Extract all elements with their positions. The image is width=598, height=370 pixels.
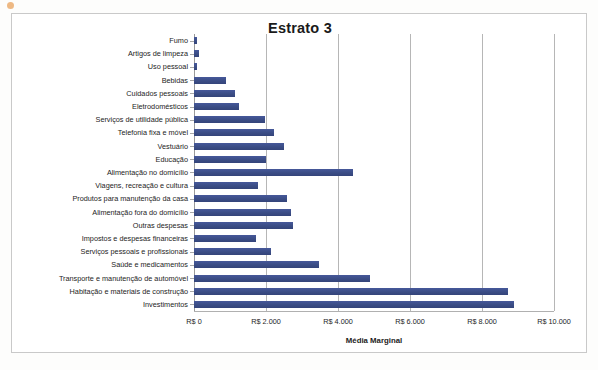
bar[interactable]: [194, 288, 508, 295]
bar[interactable]: [194, 169, 353, 176]
category-label: Alimentação no domicílio: [107, 168, 188, 177]
bar[interactable]: [194, 195, 287, 202]
bar[interactable]: [194, 182, 258, 189]
bar-row: Outras despesas: [194, 219, 554, 232]
category-label: Saúde e medicamentos: [111, 260, 188, 269]
bar-row: Alimentação fora do domicílio: [194, 205, 554, 218]
y-tick-mark: [190, 304, 194, 305]
x-axis-title: Média Marginal: [194, 336, 554, 345]
plot-area: FumoArtigos de limpezaUso pessoalBebidas…: [194, 34, 554, 311]
bar[interactable]: [194, 37, 197, 44]
y-tick-mark: [190, 146, 194, 147]
category-label: Alimentação fora do domicílio: [92, 208, 188, 217]
bar[interactable]: [194, 143, 284, 150]
y-tick-mark: [190, 93, 194, 94]
y-tick-mark: [190, 186, 194, 187]
category-label: Educação: [156, 155, 188, 164]
bar[interactable]: [194, 261, 319, 268]
category-label: Vestuário: [158, 142, 188, 151]
category-label: Telefonia fixa e móvel: [118, 128, 188, 137]
bar[interactable]: [194, 275, 370, 282]
x-tick-label: R$ 10.000: [537, 317, 571, 326]
scan-artifact-dot: [7, 2, 14, 9]
bar[interactable]: [194, 50, 199, 57]
y-tick-mark: [190, 67, 194, 68]
bar-row: Habitação e materiais de construção: [194, 285, 554, 298]
y-tick-mark: [190, 252, 194, 253]
bar-row: Transporte e manutenção de automóvel: [194, 271, 554, 284]
y-tick-mark: [190, 54, 194, 55]
bar[interactable]: [194, 77, 226, 84]
category-label: Investimentos: [143, 300, 188, 309]
bar[interactable]: [194, 63, 197, 70]
bar-row: Serviços pessoais e profissionais: [194, 245, 554, 258]
chart-page: Estrato 3 FumoArtigos de limpezaUso pess…: [0, 0, 598, 370]
y-tick-mark: [190, 159, 194, 160]
category-label: Bebidas: [162, 76, 188, 85]
y-tick-mark: [190, 199, 194, 200]
category-label: Transporte e manutenção de automóvel: [59, 274, 188, 283]
bar-row: Vestuário: [194, 140, 554, 153]
category-label: Outras despesas: [133, 221, 188, 230]
bar[interactable]: [194, 235, 256, 242]
y-tick-mark: [190, 291, 194, 292]
bar-row: Educação: [194, 153, 554, 166]
category-label: Serviços de utilidade pública: [96, 115, 188, 124]
bar-row: Alimentação no domicílio: [194, 166, 554, 179]
y-tick-mark: [190, 107, 194, 108]
bar[interactable]: [194, 248, 271, 255]
bar-row: Produtos para manutenção da casa: [194, 192, 554, 205]
y-tick-mark: [190, 278, 194, 279]
bar-row: Investimentos: [194, 298, 554, 311]
bar-row: Eletrodomésticos: [194, 100, 554, 113]
bar-row: Saúde e medicamentos: [194, 258, 554, 271]
category-label: Habitação e materiais de construção: [70, 287, 188, 296]
y-tick-mark: [190, 212, 194, 213]
bar[interactable]: [194, 222, 293, 229]
y-tick-mark: [190, 41, 194, 42]
bar-row: Fumo: [194, 34, 554, 47]
bar-row: Cuidados pessoais: [194, 87, 554, 100]
bar[interactable]: [194, 103, 239, 110]
y-tick-mark: [190, 225, 194, 226]
bar[interactable]: [194, 156, 266, 163]
x-tick-label: R$ 6.000: [395, 317, 425, 326]
x-tick-label: R$ 8.000: [467, 317, 497, 326]
category-label: Uso pessoal: [148, 62, 188, 71]
y-tick-mark: [190, 80, 194, 81]
x-tick-label: R$ 0: [186, 317, 201, 326]
chart-frame: Estrato 3 FumoArtigos de limpezaUso pess…: [11, 13, 587, 353]
bar[interactable]: [194, 90, 235, 97]
x-tick-label: R$ 2.000: [251, 317, 281, 326]
y-tick-mark: [190, 265, 194, 266]
category-axis-line: [194, 311, 554, 312]
bar[interactable]: [194, 116, 265, 123]
x-tick-label: R$ 4.000: [323, 317, 353, 326]
category-label: Viagens, recreação e cultura: [95, 181, 188, 190]
bar-row: Viagens, recreação e cultura: [194, 179, 554, 192]
category-label: Impostos e despesas financeiras: [82, 234, 188, 243]
bar-row: Bebidas: [194, 74, 554, 87]
category-label: Serviços pessoais e profissionais: [81, 247, 188, 256]
bar-row: Uso pessoal: [194, 60, 554, 73]
bar[interactable]: [194, 209, 291, 216]
y-tick-mark: [190, 238, 194, 239]
y-tick-mark: [190, 133, 194, 134]
y-tick-mark: [190, 120, 194, 121]
y-tick-mark: [190, 172, 194, 173]
category-label: Cuidados pessoais: [126, 89, 188, 98]
category-label: Produtos para manutenção da casa: [72, 194, 188, 203]
category-label: Eletrodomésticos: [132, 102, 188, 111]
bar-row: Telefonia fixa e móvel: [194, 126, 554, 139]
bar[interactable]: [194, 129, 274, 136]
bar[interactable]: [194, 301, 514, 308]
category-label: Fumo: [169, 36, 188, 45]
bar-row: Artigos de limpeza: [194, 47, 554, 60]
bar-row: Serviços de utilidade pública: [194, 113, 554, 126]
category-label: Artigos de limpeza: [128, 49, 188, 58]
bar-row: Impostos e despesas financeiras: [194, 232, 554, 245]
gridline: [554, 34, 555, 311]
